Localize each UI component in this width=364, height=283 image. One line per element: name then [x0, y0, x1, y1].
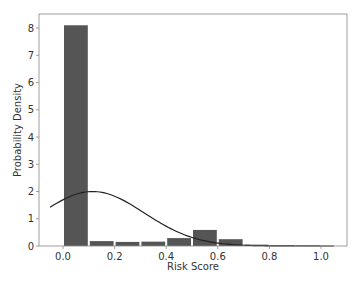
y-tick-label: 5 [28, 104, 34, 115]
y-tick-label: 7 [28, 50, 34, 61]
x-tick-label: 1.0 [313, 251, 329, 262]
y-tick-label: 0 [28, 241, 34, 252]
y-axis-ticks: 012345678 [28, 23, 39, 252]
histogram-bar [167, 238, 191, 246]
y-tick-label: 4 [28, 132, 34, 143]
x-tick-label: 0.2 [107, 251, 123, 262]
histogram-bar [193, 230, 217, 246]
x-axis-ticks: 0.00.20.40.60.81.0 [55, 246, 329, 262]
y-tick-label: 8 [28, 23, 34, 34]
y-tick-label: 3 [28, 159, 34, 170]
histogram-chart: 0.00.20.40.60.81.0 012345678 Risk Score … [0, 0, 364, 283]
x-tick-label: 0.8 [261, 251, 277, 262]
y-tick-label: 2 [28, 186, 34, 197]
histogram-bar [90, 241, 114, 246]
y-tick-label: 1 [28, 213, 34, 224]
density-curve [50, 192, 334, 247]
histogram-bar [141, 242, 165, 246]
histogram-bar [116, 242, 140, 246]
histogram-bar [64, 25, 88, 246]
y-axis-label: Probability Density [12, 83, 23, 177]
x-tick-label: 0.0 [55, 251, 71, 262]
y-tick-label: 6 [28, 77, 34, 88]
x-axis-label: Risk Score [167, 261, 219, 272]
histogram-bars [64, 25, 320, 246]
